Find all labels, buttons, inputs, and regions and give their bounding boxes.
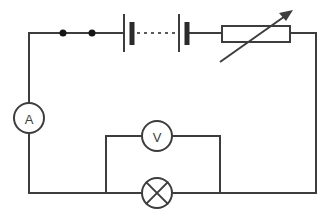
lamp-cross-circle-icon [142, 178, 172, 208]
circuit-diagram-svg: A V [0, 0, 328, 221]
ammeter-circle-icon: A [14, 103, 44, 133]
ammeter-label: A [25, 112, 34, 127]
variable-resistor-icon [220, 10, 293, 62]
battery-icon [124, 14, 187, 52]
circuit-diagram-canvas: A V [0, 0, 328, 221]
junction-dot-right [89, 30, 96, 37]
junction-dot-left [60, 30, 67, 37]
voltmeter-label: V [153, 130, 162, 145]
voltmeter-circle-icon: V [142, 121, 172, 151]
resistor-box [222, 26, 290, 42]
outer-loop-wiring [29, 33, 316, 193]
